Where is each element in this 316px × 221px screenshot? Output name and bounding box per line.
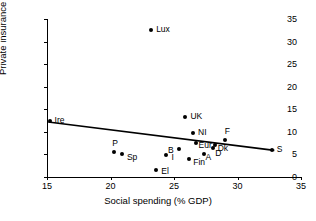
data-point-label-ire: Ire (55, 116, 65, 125)
data-point-label-f: F (225, 127, 230, 136)
data-point-ni[interactable] (191, 131, 195, 135)
y-axis-title: Private insurance (% GDP) (0, 0, 8, 98)
data-point-label-b: B (168, 146, 174, 155)
data-point-eur[interactable] (194, 141, 198, 145)
x-tick-mark (174, 177, 175, 180)
data-point-p[interactable] (112, 150, 116, 154)
data-point-f[interactable] (223, 138, 227, 142)
x-tick-mark (111, 177, 112, 180)
data-point-dk[interactable] (213, 143, 217, 147)
x-tick-label: 20 (105, 182, 115, 191)
data-point-lux[interactable] (149, 28, 153, 32)
data-point-label-s: S (277, 145, 283, 154)
data-point-label-i: I (171, 153, 173, 162)
data-point-b[interactable] (177, 147, 181, 151)
data-point-label-uk: UK (190, 112, 202, 121)
data-point-label-eur: Eur (199, 141, 212, 150)
data-point-s[interactable] (270, 148, 274, 152)
data-point-label-dk: Dk (218, 144, 228, 153)
scatter-chart-figure: Private insurance (% GDP) Social spendin… (0, 0, 316, 221)
data-point-el[interactable] (154, 168, 158, 172)
x-tick-mark (301, 177, 302, 180)
data-point-label-a: A (205, 153, 211, 162)
data-point-ire[interactable] (48, 119, 52, 123)
data-point-label-fin: Fin (193, 158, 205, 167)
x-axis-title: Social spending (% GDP) (0, 196, 316, 206)
x-tick-label: 30 (232, 182, 242, 191)
data-point-label-sp: Sp (127, 153, 137, 162)
data-point-label-lux: Lux (156, 25, 170, 34)
data-point-label-el: El (161, 167, 169, 176)
data-point-label-p: P (112, 139, 118, 148)
x-tick-label: 25 (169, 182, 179, 191)
data-points-layer: IrePSpLuxElIBUKFinNIEurADDkFS (47, 19, 301, 177)
data-point-uk[interactable] (183, 115, 187, 119)
x-tick-mark (238, 177, 239, 180)
data-point-fin[interactable] (187, 157, 191, 161)
x-tick-label: 15 (42, 182, 52, 191)
x-tick-label: 35 (296, 182, 306, 191)
plot-area: 05101520253035 1520253035 IrePSpLuxElIBU… (47, 19, 301, 177)
x-tick-mark (47, 177, 48, 180)
data-point-label-ni: NI (198, 128, 207, 137)
data-point-sp[interactable] (120, 152, 124, 156)
